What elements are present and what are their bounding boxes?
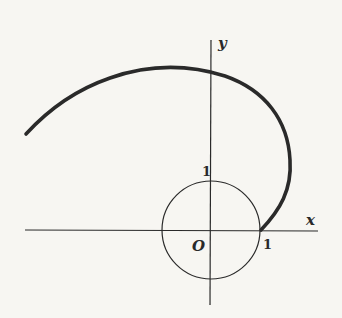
- x-axis: [25, 230, 318, 231]
- x-tick-label: 1: [263, 237, 272, 252]
- x-axis-label: x: [305, 211, 316, 229]
- spiral-figure: y x O 1 1: [0, 0, 342, 318]
- y-axis-label: y: [217, 34, 228, 52]
- y-tick-label: 1: [202, 164, 211, 179]
- spiral-curve: [26, 68, 290, 230]
- origin-label: O: [192, 237, 205, 255]
